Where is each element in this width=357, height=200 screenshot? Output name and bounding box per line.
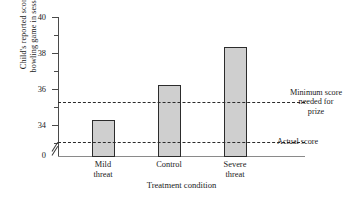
y-tick-label-36: 36 — [30, 86, 46, 94]
x-tick-label-control: Control — [139, 160, 199, 170]
x-axis-title: Treatment condition — [58, 180, 305, 190]
x-tick-label-severe-threat-line-1: Severe — [205, 160, 265, 170]
bar-mild-threat — [92, 120, 115, 157]
annotation-actual-score-line-1: Actual score — [277, 137, 357, 146]
annotation-minimum-score-line-3: prize — [276, 107, 356, 116]
y-axis-tick-labels: 40 38 36 34 0 — [28, 0, 46, 200]
bar-control — [158, 85, 181, 157]
reference-line-actual-score — [58, 142, 305, 143]
y-tick-major-38 — [52, 53, 58, 54]
annotation-minimum-score-line-2: needed for — [276, 97, 356, 106]
annotation-minimum-score-line-1: Minimum score — [276, 88, 356, 97]
y-tick-major-36 — [52, 89, 58, 90]
reference-line-minimum-score — [58, 102, 305, 103]
y-tick-label-38: 38 — [30, 50, 46, 58]
y-tick-minor-35 — [54, 107, 58, 108]
y-tick-major-40 — [52, 17, 58, 18]
x-tick-label-mild-threat: Mild threat — [73, 160, 133, 179]
annotation-actual-score: Actual score — [277, 137, 357, 146]
y-axis-line — [58, 17, 59, 157]
y-tick-label-34: 34 — [30, 122, 46, 130]
y-tick-major-34 — [52, 125, 58, 126]
x-tick-label-severe-threat-line-2: threat — [205, 170, 265, 180]
bar-chart-figure: Child's reported score on bowling game i… — [0, 0, 357, 200]
y-tick-label-zero: 0 — [30, 152, 46, 160]
x-tick-label-mild-threat-line-2: threat — [73, 170, 133, 180]
x-tick-label-mild-threat-line-1: Mild — [73, 160, 133, 170]
y-tick-minor-39 — [54, 35, 58, 36]
y-tick-minor-37 — [54, 71, 58, 72]
y-tick-label-40: 40 — [30, 14, 46, 22]
x-tick-label-severe-threat: Severe threat — [205, 160, 265, 179]
x-tick-label-control-line-1: Control — [139, 160, 199, 170]
annotation-minimum-score: Minimum score needed for prize — [276, 88, 356, 116]
